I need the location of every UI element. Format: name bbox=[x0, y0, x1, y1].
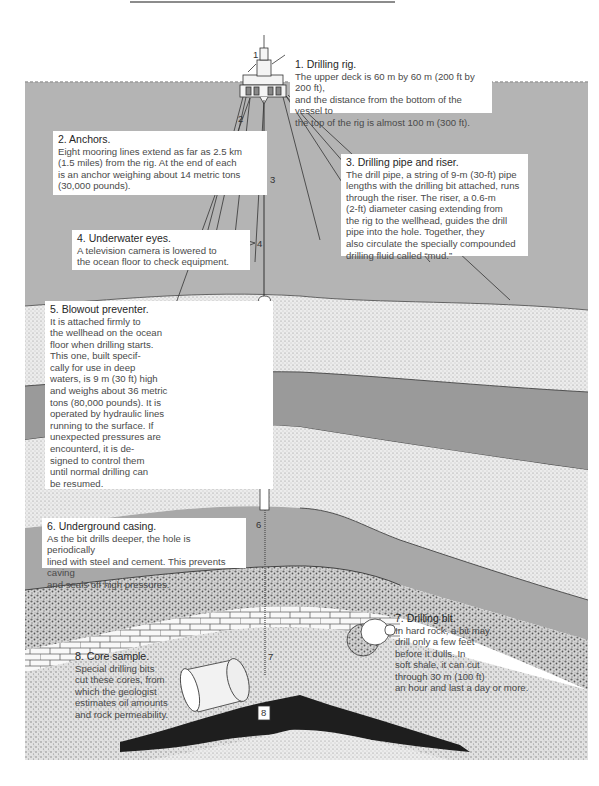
callout-anchors: 2. Anchors. Eight mooring lines extend a… bbox=[53, 131, 267, 195]
callout-title: 6. Underground casing. bbox=[47, 520, 241, 533]
callout-underground-casing: 6. Underground casing. As the bit drills… bbox=[42, 518, 246, 568]
callout-drilling-pipe-riser: 3. Drilling pipe and riser. The drill pi… bbox=[341, 154, 528, 256]
callout-drilling-bit: 7. Drilling bit. In hard rock, a bit may… bbox=[390, 610, 538, 696]
marker-7: 7 bbox=[268, 651, 273, 662]
callout-body: In hard rock, a bit may drill only a few… bbox=[395, 625, 533, 695]
callout-body: The drill pipe, a string of 9-m (30-ft) … bbox=[346, 169, 523, 262]
marker-6: 6 bbox=[256, 519, 261, 530]
marker-8: 8 bbox=[261, 707, 266, 718]
rig-drawing bbox=[240, 35, 286, 104]
callout-body: The upper deck is 60 m by 60 m (200 ft b… bbox=[295, 71, 487, 129]
callout-underwater-eyes: 4. Underwater eyes. A television camera … bbox=[72, 230, 250, 270]
callout-title: 5. Blowout preventer. bbox=[50, 303, 173, 316]
callout-title: 3. Drilling pipe and riser. bbox=[346, 156, 523, 169]
callout-title: 4. Underwater eyes. bbox=[77, 232, 245, 245]
callout-blowout-preventer: 5. Blowout preventer. It is attached fir… bbox=[45, 301, 273, 489]
callout-body: A television camera is lowered to the oc… bbox=[77, 245, 245, 268]
marker-2: 2 bbox=[238, 113, 243, 124]
callout-title: 1. Drilling rig. bbox=[295, 58, 487, 71]
callout-body: It is attached firmly to the wellhead on… bbox=[50, 316, 173, 490]
callout-body: Special drilling bits cut these cores, f… bbox=[75, 663, 173, 721]
callout-drilling-rig: 1. Drilling rig. The upper deck is 60 m … bbox=[290, 56, 492, 113]
marker-4: 4 bbox=[257, 238, 262, 249]
callout-title: 8. Core sample. bbox=[75, 650, 173, 663]
callout-body: Eight mooring lines extend as far as 2.5… bbox=[58, 146, 262, 192]
marker-3: 3 bbox=[270, 174, 275, 185]
marker-1: 1 bbox=[253, 49, 258, 60]
callout-core-sample: 8. Core sample. Special drilling bits cu… bbox=[70, 648, 178, 720]
callout-body: As the bit drills deeper, the hole is pe… bbox=[47, 533, 241, 591]
callout-title: 7. Drilling bit. bbox=[395, 612, 533, 625]
callout-title: 2. Anchors. bbox=[58, 133, 262, 146]
